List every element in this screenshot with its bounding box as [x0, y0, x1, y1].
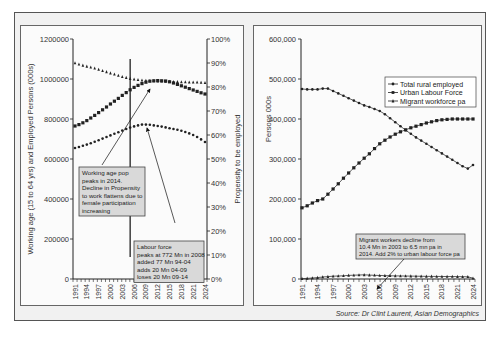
svg-text:500,000: 500,000 — [269, 75, 296, 84]
svg-text:800000: 800000 — [44, 115, 69, 124]
svg-text:increasing: increasing — [82, 207, 111, 214]
svg-text:2021: 2021 — [454, 284, 461, 300]
svg-text:70%: 70% — [211, 107, 226, 116]
svg-text:60%: 60% — [211, 131, 226, 140]
svg-text:to work flattens due to: to work flattens due to — [82, 192, 143, 199]
svg-text:2024: 2024 — [470, 284, 477, 300]
svg-text:loses 20 Mn 09-14: loses 20 Mn 09-14 — [137, 273, 188, 280]
svg-text:female participation: female participation — [82, 199, 136, 206]
svg-text:0%: 0% — [211, 275, 222, 284]
svg-text:600,000: 600,000 — [269, 35, 296, 44]
svg-text:90%: 90% — [211, 59, 226, 68]
svg-text:Urban Labour Force: Urban Labour Force — [400, 89, 463, 96]
svg-text:1994: 1994 — [314, 284, 321, 300]
svg-text:1991: 1991 — [299, 284, 306, 300]
svg-text:1997: 1997 — [95, 284, 102, 300]
svg-text:2012: 2012 — [407, 284, 414, 300]
svg-text:2009: 2009 — [142, 284, 149, 300]
svg-text:2024: 2024 — [202, 284, 209, 300]
left-chart: 0200000400000600000800000100000012000000… — [21, 26, 245, 307]
svg-text:0: 0 — [65, 275, 69, 284]
svg-text:Total rural employed: Total rural employed — [400, 81, 463, 89]
svg-text:2003: 2003 — [119, 284, 126, 300]
svg-text:2012: 2012 — [154, 284, 161, 300]
svg-text:2006: 2006 — [131, 284, 138, 300]
svg-text:100%: 100% — [211, 35, 231, 44]
svg-text:Propensity to be employed: Propensity to be employed — [233, 115, 242, 204]
svg-text:0: 0 — [292, 275, 296, 284]
svg-text:30%: 30% — [211, 203, 226, 212]
svg-text:100,000: 100,000 — [269, 235, 296, 244]
svg-text:600000: 600000 — [44, 155, 69, 164]
svg-text:2000: 2000 — [107, 284, 114, 300]
svg-text:peaks at 772 Mn in 2008: peaks at 772 Mn in 2008 — [137, 251, 205, 258]
svg-text:2015: 2015 — [423, 284, 430, 300]
svg-text:Migrant workers decline from: Migrant workers decline from — [359, 237, 435, 243]
svg-text:Persons 000s: Persons 000s — [264, 96, 273, 142]
right-chart-panel: 0100,000200,000300,000400,000500,000600,… — [253, 25, 482, 306]
svg-text:Working age pop: Working age pop — [82, 169, 129, 176]
source-caption: Source: Dr Clint Laurent, Asian Demograp… — [336, 310, 479, 317]
svg-text:Working age (15 to 64 yrs) and: Working age (15 to 64 yrs) and Employed … — [26, 63, 35, 255]
svg-text:20%: 20% — [211, 227, 226, 236]
svg-text:1000000: 1000000 — [40, 75, 69, 84]
svg-text:2009: 2009 — [392, 284, 399, 300]
svg-text:2018: 2018 — [438, 284, 445, 300]
svg-text:Labour force: Labour force — [137, 243, 172, 250]
svg-text:2018: 2018 — [178, 284, 185, 300]
svg-text:200,000: 200,000 — [269, 195, 296, 204]
svg-text:1994: 1994 — [83, 284, 90, 300]
svg-text:Migrant workforce pa: Migrant workforce pa — [400, 98, 465, 106]
svg-text:2021: 2021 — [190, 284, 197, 300]
svg-text:80%: 80% — [211, 83, 226, 92]
svg-text:Decline in Propensity: Decline in Propensity — [82, 184, 141, 191]
left-chart-panel: 0200000400000600000800000100000012000000… — [20, 25, 244, 306]
svg-text:2015: 2015 — [166, 284, 173, 300]
svg-text:10%: 10% — [211, 251, 226, 260]
svg-text:2014. Add 2% to urban labour f: 2014. Add 2% to urban labour force pa — [359, 251, 461, 257]
svg-text:200000: 200000 — [44, 235, 69, 244]
svg-text:50%: 50% — [211, 155, 226, 164]
svg-text:1997: 1997 — [330, 284, 337, 300]
svg-text:1991: 1991 — [72, 284, 79, 300]
svg-text:300,000: 300,000 — [269, 155, 296, 164]
svg-text:10.4 Mn in 2003 to 6.5 mn pa i: 10.4 Mn in 2003 to 6.5 mn pa in — [359, 244, 442, 250]
svg-text:2003: 2003 — [361, 284, 368, 300]
svg-text:adds 20 Mn 04-09: adds 20 Mn 04-09 — [137, 266, 187, 273]
svg-text:peaks in 2014.: peaks in 2014. — [82, 177, 123, 184]
right-chart: 0100,000200,000300,000400,000500,000600,… — [254, 26, 483, 307]
svg-text:400000: 400000 — [44, 195, 69, 204]
svg-text:40%: 40% — [211, 179, 226, 188]
svg-text:2000: 2000 — [345, 284, 352, 300]
svg-text:added 77 Mn 94-04: added 77 Mn 94-04 — [137, 258, 191, 265]
svg-text:1200000: 1200000 — [40, 35, 69, 44]
figure-frame: 0200000400000600000800000100000012000000… — [14, 12, 486, 321]
